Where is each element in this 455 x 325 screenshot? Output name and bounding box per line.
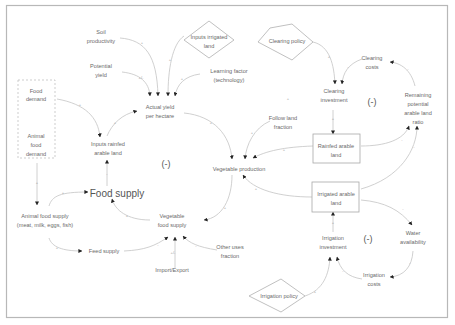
- svg-text:Irrigated arable: Irrigated arable: [317, 191, 355, 197]
- svg-text:food supply: food supply: [158, 222, 187, 228]
- svg-text:Learning factor: Learning factor: [210, 68, 247, 74]
- svg-text:productivity: productivity: [87, 38, 115, 44]
- svg-text:Animal: Animal: [27, 133, 44, 139]
- svg-text:Animal food supply: Animal food supply: [21, 213, 68, 219]
- svg-text:Vegetable production: Vegetable production: [213, 166, 266, 172]
- svg-text:demand: demand: [26, 151, 46, 157]
- node-vegetable-production: Vegetable production: [213, 166, 266, 172]
- node-import-export: Import/Export: [155, 267, 189, 273]
- loop-label-irrigation: (-): [364, 234, 373, 244]
- svg-text:Water: Water: [406, 230, 421, 236]
- node-feed-supply: Feed supply: [89, 248, 120, 254]
- svg-text:potential: potential: [407, 101, 428, 107]
- svg-text:ratio: ratio: [413, 119, 424, 125]
- svg-text:costs: costs: [365, 64, 378, 70]
- svg-text:Food supply: Food supply: [90, 188, 144, 199]
- svg-text:land: land: [331, 200, 342, 206]
- svg-text:Clearing policy: Clearing policy: [269, 38, 306, 44]
- svg-text:Actual yield: Actual yield: [146, 104, 175, 110]
- svg-text:(technology): (technology): [214, 77, 245, 83]
- svg-text:fraction: fraction: [274, 124, 292, 130]
- diagram-frame: [7, 6, 448, 318]
- loop-label-left: (-): [162, 159, 171, 169]
- node-food-supply: Food supply: [90, 188, 144, 199]
- svg-text:Irrigation policy: Irrigation policy: [260, 293, 298, 299]
- svg-text:Potential: Potential: [90, 63, 112, 69]
- svg-text:costs: costs: [367, 281, 380, 287]
- svg-text:investment: investment: [320, 97, 347, 103]
- svg-text:Clearing: Clearing: [324, 88, 345, 94]
- svg-text:+/-: +/-: [139, 75, 144, 80]
- svg-text:Inputs irrigated: Inputs irrigated: [190, 34, 227, 40]
- svg-text:arable land: arable land: [94, 150, 122, 156]
- svg-text:arable land: arable land: [404, 110, 432, 116]
- svg-text:Remaining: Remaining: [405, 92, 432, 98]
- svg-text:yield: yield: [95, 72, 107, 78]
- causal-loop-diagram: + + +/- + + + + + + + + + - + + + - +/- …: [0, 0, 455, 325]
- svg-text:Follow land: Follow land: [269, 115, 297, 121]
- svg-text:Irrigation: Irrigation: [322, 235, 344, 241]
- svg-text:Feed supply: Feed supply: [89, 248, 120, 254]
- svg-text:Inputs rainfed: Inputs rainfed: [91, 141, 125, 147]
- svg-text:Clearing: Clearing: [362, 55, 383, 61]
- svg-text:Other uses: Other uses: [216, 244, 244, 250]
- svg-text:fraction: fraction: [221, 253, 239, 259]
- svg-text:(meat, milk, eggs, fish): (meat, milk, eggs, fish): [17, 222, 73, 228]
- svg-text:demand: demand: [26, 96, 46, 102]
- svg-text:food: food: [31, 142, 42, 148]
- node-rainfed-arable-land: Rainfed arable land: [313, 134, 360, 163]
- loop-label-clearing: (-): [368, 97, 377, 107]
- svg-text:Food: Food: [30, 88, 43, 94]
- svg-text:Import/Export: Import/Export: [155, 267, 189, 273]
- svg-text:land: land: [331, 152, 342, 158]
- svg-text:Vegetable: Vegetable: [160, 213, 185, 219]
- svg-text:land: land: [204, 43, 215, 49]
- svg-text:availability: availability: [400, 239, 426, 245]
- svg-text:Soil: Soil: [96, 29, 105, 35]
- svg-text:+/-: +/-: [171, 250, 176, 255]
- svg-text:Irrigation: Irrigation: [363, 272, 385, 278]
- node-irrigated-arable-land: Irrigated arable land: [312, 182, 359, 212]
- svg-text:per hectare: per hectare: [146, 113, 174, 119]
- svg-text:Rainfed arable: Rainfed arable: [318, 143, 354, 149]
- svg-text:investment: investment: [319, 244, 346, 250]
